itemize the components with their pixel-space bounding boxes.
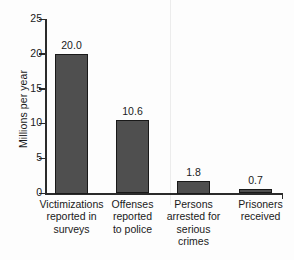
category-label-prisoners: Prisoners received (229, 198, 292, 223)
y-axis-line (45, 19, 47, 194)
y-tick-label-5: 5 (2, 151, 42, 163)
category-label-victimizations: Victimizations reported in surveys (31, 198, 112, 235)
bar-victimizations-reported-in-surveys (55, 54, 88, 194)
bar-chart: Millions per year 0 5 10 15 20 25 20.0 1… (0, 0, 294, 260)
bar-value-victimizations: 20.0 (55, 39, 88, 51)
bar-offenses-reported-to-police (116, 120, 149, 194)
category-label-persons-arrested: Persons arrested for serious crimes (157, 198, 230, 248)
y-tick-label-0: 0 (2, 186, 42, 198)
bar-value-offenses: 10.6 (116, 105, 149, 117)
y-tick-label-20: 20 (2, 47, 42, 59)
y-tick-label-25: 25 (2, 12, 42, 24)
y-tick-label-15: 15 (2, 82, 42, 94)
bar-value-prisoners: 0.7 (239, 174, 272, 186)
page-fold-artifact (170, 0, 171, 205)
bar-prisoners-received (239, 189, 272, 194)
bar-persons-arrested-for-serious-crimes (177, 181, 210, 194)
y-tick-label-10: 10 (2, 116, 42, 128)
bar-value-persons-arrested: 1.8 (177, 166, 210, 178)
category-label-offenses: Offenses reported to police (101, 198, 164, 235)
